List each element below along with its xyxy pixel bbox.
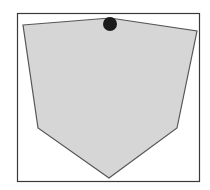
vertex-dot[interactable] <box>103 17 117 31</box>
polygon-shape <box>23 18 197 178</box>
diagram-canvas <box>0 0 210 190</box>
